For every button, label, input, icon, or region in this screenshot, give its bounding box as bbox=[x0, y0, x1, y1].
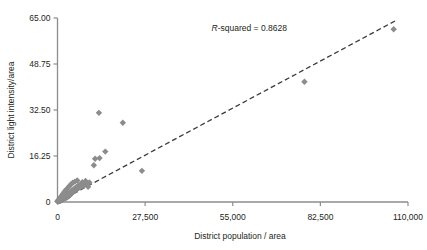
x-axis-tick-label: 0 bbox=[55, 212, 60, 222]
data-point-marker bbox=[120, 120, 126, 126]
trendline bbox=[66, 21, 395, 198]
x-axis-title: District population / area bbox=[194, 231, 286, 241]
x-axis-tick-label: 27,500 bbox=[132, 212, 158, 222]
y-axis-tick-label: 0 bbox=[46, 197, 51, 207]
x-axis-tick-label: 82,500 bbox=[307, 212, 333, 222]
x-axis-tick-label: 110,000 bbox=[393, 212, 423, 222]
scatter-chart: 016.2532.5048.7565.00 027,50055,00082,50… bbox=[0, 0, 427, 250]
r-squared-annotation: R-squared = 0.8628 bbox=[212, 23, 288, 33]
r-squared-value: -squared = 0.8628 bbox=[218, 23, 288, 33]
data-point-marker bbox=[91, 162, 97, 168]
data-point-group bbox=[54, 26, 396, 205]
y-axis-tick-label: 16.25 bbox=[29, 151, 51, 161]
y-axis-title: District light intensity/area bbox=[6, 61, 16, 158]
data-point-marker bbox=[139, 168, 145, 174]
x-axis-tick-labels: 027,50055,00082,500110,000 bbox=[55, 212, 423, 222]
chart-canvas: 016.2532.5048.7565.00 027,50055,00082,50… bbox=[0, 0, 427, 250]
y-axis-tick-labels: 016.2532.5048.7565.00 bbox=[29, 13, 51, 207]
y-axis-tick-label: 65.00 bbox=[29, 13, 51, 23]
data-point-marker bbox=[301, 78, 307, 84]
data-point-marker bbox=[96, 110, 102, 116]
data-point-marker bbox=[102, 148, 108, 154]
axis-group bbox=[54, 18, 409, 206]
data-point-marker bbox=[92, 155, 98, 161]
y-axis-tick-label: 48.75 bbox=[29, 59, 51, 69]
y-axis-tick-label: 32.50 bbox=[29, 105, 51, 115]
data-point-marker bbox=[390, 26, 396, 32]
x-axis-tick-label: 55,000 bbox=[220, 212, 246, 222]
